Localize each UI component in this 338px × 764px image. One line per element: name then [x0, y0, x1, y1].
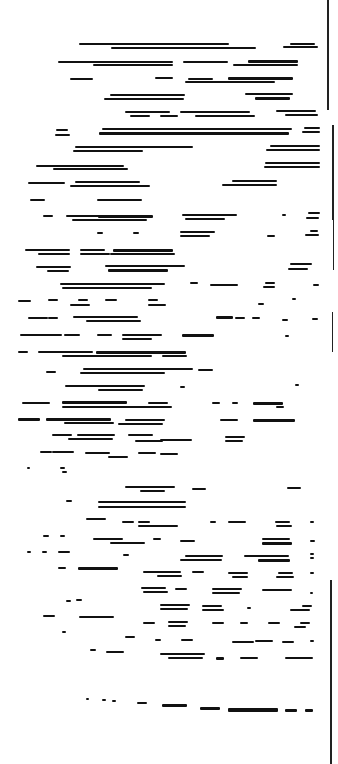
text-stroke-fragment — [40, 451, 52, 453]
text-stroke-fragment — [125, 419, 165, 421]
text-stroke-fragment — [140, 490, 165, 492]
text-stroke-fragment — [185, 218, 225, 220]
text-stroke-fragment — [98, 389, 143, 391]
text-stroke-fragment — [137, 702, 147, 704]
text-stroke-fragment — [70, 304, 90, 306]
text-stroke-fragment — [252, 317, 260, 319]
page-edge-line — [333, 210, 334, 270]
text-stroke-fragment — [228, 708, 278, 712]
text-stroke-fragment — [93, 538, 123, 540]
text-stroke-fragment — [18, 300, 31, 302]
text-stroke-fragment — [80, 249, 105, 251]
text-stroke-fragment — [62, 471, 67, 473]
text-stroke-fragment — [300, 622, 310, 624]
text-stroke-fragment — [70, 78, 93, 80]
text-stroke-fragment — [192, 488, 206, 490]
text-stroke-fragment — [240, 622, 248, 624]
text-stroke-fragment — [104, 98, 184, 100]
text-stroke-fragment — [313, 284, 319, 286]
text-stroke-fragment — [160, 653, 205, 655]
text-stroke-fragment — [46, 371, 56, 373]
text-stroke-fragment — [65, 385, 145, 387]
text-stroke-fragment — [245, 93, 293, 95]
text-stroke-fragment — [232, 576, 248, 578]
text-stroke-fragment — [310, 230, 318, 232]
text-stroke-fragment — [180, 540, 195, 542]
text-stroke-fragment — [160, 608, 188, 610]
text-stroke-fragment — [58, 551, 70, 553]
text-stroke-fragment — [108, 456, 128, 458]
text-stroke-fragment — [97, 199, 142, 201]
text-stroke-fragment — [290, 43, 315, 45]
text-stroke-fragment — [52, 434, 72, 436]
text-stroke-fragment — [285, 335, 289, 337]
text-stroke-fragment — [76, 599, 82, 601]
page-edge-line — [332, 125, 334, 220]
text-stroke-fragment — [85, 452, 110, 454]
text-stroke-fragment — [138, 452, 156, 454]
text-stroke-fragment — [268, 622, 280, 624]
text-stroke-fragment — [180, 235, 210, 237]
text-stroke-fragment — [235, 317, 245, 319]
text-stroke-fragment — [55, 134, 70, 136]
text-stroke-fragment — [68, 438, 113, 440]
text-stroke-fragment — [36, 165, 124, 167]
text-stroke-fragment — [112, 700, 116, 702]
text-stroke-fragment — [58, 567, 66, 569]
text-stroke-fragment — [90, 649, 96, 651]
text-stroke-fragment — [56, 129, 68, 131]
text-stroke-fragment — [43, 215, 53, 217]
text-stroke-fragment — [292, 298, 296, 300]
text-stroke-fragment — [73, 150, 143, 152]
text-stroke-fragment — [310, 572, 314, 574]
text-stroke-fragment — [27, 467, 30, 469]
text-stroke-fragment — [48, 317, 58, 319]
text-stroke-fragment — [200, 707, 220, 710]
text-stroke-fragment — [64, 334, 80, 336]
text-stroke-fragment — [133, 232, 139, 234]
text-stroke-fragment — [62, 287, 152, 289]
text-stroke-fragment — [285, 709, 297, 712]
text-stroke-fragment — [302, 605, 312, 607]
text-stroke-fragment — [28, 182, 65, 184]
text-stroke-fragment — [216, 316, 233, 319]
text-stroke-fragment — [180, 231, 215, 233]
text-stroke-fragment — [75, 181, 140, 183]
text-stroke-fragment — [212, 592, 240, 594]
text-stroke-fragment — [180, 111, 250, 113]
text-stroke-fragment — [77, 434, 115, 436]
text-stroke-fragment — [130, 115, 150, 117]
text-stroke-fragment — [210, 284, 238, 286]
text-stroke-fragment — [168, 657, 203, 659]
text-stroke-fragment — [148, 304, 166, 306]
text-stroke-fragment — [125, 111, 170, 113]
text-stroke-fragment — [267, 235, 275, 237]
text-stroke-fragment — [263, 286, 275, 288]
text-stroke-fragment — [155, 639, 161, 641]
text-stroke-fragment — [294, 626, 306, 628]
text-stroke-fragment — [248, 60, 298, 63]
text-stroke-fragment — [302, 131, 320, 133]
text-stroke-fragment — [168, 621, 188, 623]
text-stroke-fragment — [228, 572, 248, 574]
text-stroke-fragment — [212, 402, 220, 404]
text-stroke-fragment — [288, 268, 308, 270]
text-stroke-fragment — [79, 616, 114, 618]
text-stroke-fragment — [285, 114, 318, 116]
text-stroke-fragment — [62, 631, 66, 633]
text-stroke-fragment — [310, 553, 314, 555]
text-stroke-fragment — [38, 351, 93, 353]
text-stroke-fragment — [62, 406, 172, 408]
text-stroke-fragment — [122, 334, 162, 336]
text-stroke-fragment — [160, 439, 192, 441]
text-stroke-fragment — [135, 440, 163, 442]
text-stroke-fragment — [195, 115, 255, 117]
text-stroke-fragment — [46, 418, 111, 421]
text-stroke-fragment — [262, 538, 290, 540]
text-stroke-fragment — [310, 521, 314, 523]
text-stroke-fragment — [212, 588, 242, 590]
page-edge-line — [330, 580, 332, 764]
text-stroke-fragment — [60, 283, 165, 285]
text-stroke-fragment — [102, 699, 106, 701]
text-stroke-fragment — [306, 217, 319, 219]
